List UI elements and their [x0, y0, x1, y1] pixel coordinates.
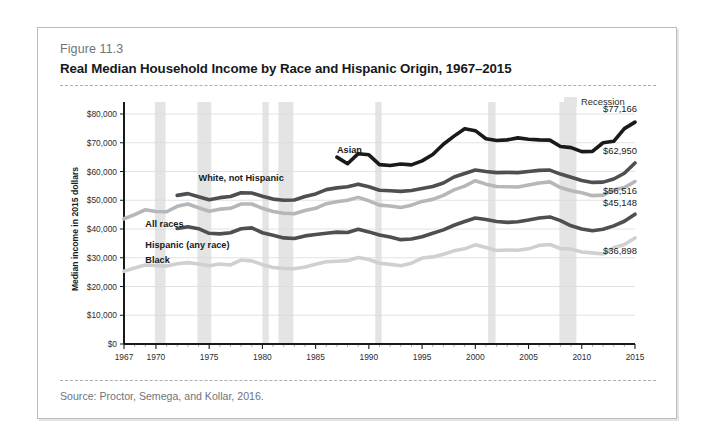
series-line-asian — [337, 122, 635, 165]
recession-legend-label: Recession — [581, 96, 625, 107]
y-tick-label: $10,000 — [87, 310, 118, 320]
series-label-black: Black — [145, 255, 170, 265]
end-label-hispanic-any-race: $45,148 — [603, 197, 637, 208]
y-tick-label: $70,000 — [87, 138, 118, 148]
recession-band — [375, 102, 381, 344]
x-tick-label: 1990 — [360, 352, 379, 362]
x-tick-labels-group: 1967197019751980198519901995200020052010… — [115, 352, 645, 362]
end-label-all-races: $56,516 — [603, 185, 637, 196]
recession-band — [278, 102, 293, 344]
recession-legend-group: Recession — [564, 96, 625, 107]
figure-number: Figure 11.3 — [60, 42, 123, 56]
x-tick-label: 2015 — [626, 352, 645, 362]
y-tick-label: $40,000 — [87, 224, 118, 234]
x-tick-label: 2010 — [572, 352, 591, 362]
divider-bottom — [60, 380, 656, 381]
series-label-white-not-hispanic: White, not Hispanic — [199, 173, 284, 183]
figure-title: Real Median Household Income by Race and… — [60, 61, 511, 76]
series-label-asian: Asian — [337, 145, 362, 155]
y-tick-label: $60,000 — [87, 167, 118, 177]
y-tick-label: $20,000 — [87, 282, 118, 292]
chart-plot-area: $0$10,000$20,000$30,000$40,000$50,000$60… — [38, 94, 678, 379]
y-tick-label: $50,000 — [87, 195, 118, 205]
x-tick-label: 1967 — [115, 352, 134, 362]
series-label-hispanic-any-race: Hispanic (any race) — [145, 240, 229, 250]
y-tick-label: $0 — [108, 339, 118, 349]
recession-band — [262, 102, 268, 344]
y-tick-label: $80,000 — [87, 109, 118, 119]
recession-legend-swatch — [564, 97, 577, 106]
x-tick-label: 1985 — [306, 352, 325, 362]
recession-band — [197, 102, 211, 344]
x-tick-label: 2005 — [519, 352, 538, 362]
y-tick-label: $30,000 — [87, 253, 118, 263]
end-label-black: $36,898 — [603, 245, 637, 256]
line-chart: $0$10,000$20,000$30,000$40,000$50,000$60… — [38, 94, 678, 379]
x-tick-label: 2000 — [466, 352, 485, 362]
y-tick-labels-group: $0$10,000$20,000$30,000$40,000$50,000$60… — [87, 109, 118, 349]
y-axis-title: Median income in 2015 dollars — [70, 167, 80, 291]
x-tick-label: 1980 — [253, 352, 272, 362]
x-tick-label: 1970 — [147, 352, 166, 362]
figure-panel: Figure 11.3 Real Median Household Income… — [37, 27, 677, 419]
series-label-all-races: All races — [145, 219, 183, 229]
source-note: Source: Proctor, Semega, and Kollar, 201… — [60, 390, 264, 402]
x-tick-label: 1975 — [200, 352, 219, 362]
end-label-white-not-hispanic: $62,950 — [603, 145, 637, 156]
divider-top — [60, 85, 656, 86]
y-axis-title-group: Median income in 2015 dollars — [70, 167, 80, 291]
x-tick-label: 1995 — [413, 352, 432, 362]
